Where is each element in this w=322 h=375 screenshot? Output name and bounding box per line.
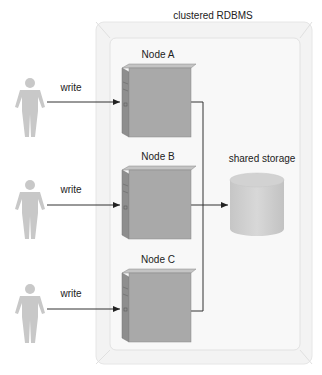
storage-label: shared storage — [222, 153, 302, 164]
write-label-3: write — [51, 288, 91, 299]
server-node-b[interactable] — [122, 166, 196, 239]
client-person-2 — [15, 180, 45, 239]
client-person-3 — [15, 284, 45, 343]
server-node-c[interactable] — [122, 269, 196, 342]
client-person-1 — [15, 78, 45, 137]
container-title: clustered RDBMS — [158, 10, 268, 21]
shared-storage-cylinder[interactable] — [230, 173, 284, 236]
node-a-label: Node A — [128, 49, 188, 60]
write-label-2: write — [51, 184, 91, 195]
server-node-a[interactable] — [122, 64, 196, 137]
node-c-label: Node C — [128, 254, 188, 265]
write-label-1: write — [51, 82, 91, 93]
node-b-label: Node B — [128, 151, 188, 162]
